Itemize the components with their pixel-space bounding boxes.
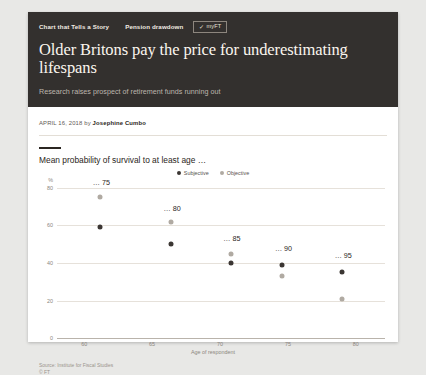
y-axis-tick: 20 — [39, 298, 53, 304]
data-point-subjective — [169, 242, 174, 247]
legend-item[interactable]: Objective — [220, 170, 249, 176]
data-point-subjective — [98, 225, 103, 230]
y-gridline — [57, 188, 385, 189]
legend-label: Subjective — [184, 170, 209, 176]
article-body: APRIL 16, 2018 by Josephine Cumbo Mean p… — [28, 107, 398, 375]
byline: APRIL 16, 2018 by Josephine Cumbo — [39, 107, 387, 136]
chart-title-rule — [39, 147, 61, 149]
chart-legend: SubjectiveObjective — [39, 170, 387, 176]
data-point-objective — [169, 219, 174, 224]
data-point-subjective — [228, 261, 233, 266]
headline: Older Britons pay the price for underest… — [39, 41, 387, 78]
legend-label: Objective — [227, 170, 249, 176]
byline-by: by — [84, 120, 91, 126]
point-annotation: … 95 — [335, 251, 352, 260]
kicker-series-link[interactable]: Chart that Tells a Story — [39, 24, 109, 30]
y-gridline — [57, 301, 385, 302]
byline-author[interactable]: Josephine Cumbo — [93, 120, 146, 126]
x-axis-tick: 60 — [81, 341, 87, 347]
point-annotation: … 85 — [223, 234, 240, 243]
y-gridline — [57, 263, 385, 264]
legend-swatch — [220, 171, 224, 175]
data-point-objective — [280, 274, 285, 279]
x-axis-tick: 75 — [285, 341, 291, 347]
copyright-line: © FT — [39, 369, 387, 375]
data-point-objective — [340, 296, 345, 301]
y-axis-tick: 40 — [39, 260, 53, 266]
kicker-row: Chart that Tells a Story Pension drawdow… — [39, 21, 387, 33]
data-point-subjective — [340, 270, 345, 275]
y-gridline — [57, 338, 385, 339]
chart-plot-area: %0204060806065707580… 75… 80… 85… 90… 95 — [39, 178, 387, 338]
screenshot-root: Chart that Tells a Story Pension drawdow… — [0, 0, 426, 375]
chart-footnote: Source: Institute for Fiscal Studies © F… — [39, 355, 387, 375]
source-line: Source: Institute for Fiscal Studies — [39, 362, 387, 369]
byline-date: APRIL 16, 2018 — [39, 120, 82, 126]
data-point-objective — [98, 195, 103, 200]
add-to-myft-button[interactable]: ✓ myFT — [193, 21, 227, 33]
check-icon: ✓ — [199, 24, 204, 30]
x-axis-tick: 70 — [217, 341, 223, 347]
data-point-objective — [228, 251, 233, 256]
myft-label: myFT — [207, 24, 222, 30]
data-point-subjective — [280, 262, 285, 267]
y-gridline — [57, 225, 385, 226]
chart-container: Mean probability of survival to at least… — [39, 136, 387, 355]
y-axis-tick: 0 — [39, 335, 53, 341]
article-masthead: Chart that Tells a Story Pension drawdow… — [28, 12, 398, 107]
chart-title: Mean probability of survival to at least… — [39, 155, 387, 165]
x-axis-tick: 80 — [353, 341, 359, 347]
y-axis-tick: 60 — [39, 222, 53, 228]
point-annotation: … 90 — [275, 244, 292, 253]
article-card: Chart that Tells a Story Pension drawdow… — [28, 12, 398, 342]
point-annotation: … 80 — [164, 204, 181, 213]
y-axis-unit: % — [39, 177, 53, 183]
kicker-topic-link[interactable]: Pension drawdown — [125, 24, 183, 30]
x-axis-tick: 65 — [149, 341, 155, 347]
legend-item[interactable]: Subjective — [177, 170, 209, 176]
point-annotation: … 75 — [93, 178, 110, 187]
legend-swatch — [177, 171, 181, 175]
standfirst: Research raises prospect of retirement f… — [39, 87, 387, 96]
y-axis-tick: 80 — [39, 185, 53, 191]
